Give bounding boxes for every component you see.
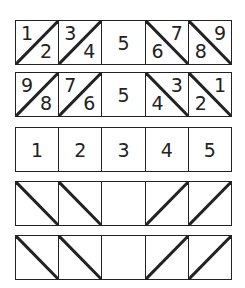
cell-r3-c1: 1 <box>16 128 59 171</box>
cell-r2-c1: 9 8 <box>16 73 59 116</box>
cell-r5-c4 <box>146 236 189 279</box>
cell-r2-c3: 5 <box>102 73 145 116</box>
cell-number-center: 5 <box>102 85 144 104</box>
cell-r3-c3: 3 <box>102 128 145 171</box>
diagonal-up-line <box>146 182 188 225</box>
cell-number-top-right: 1 <box>214 76 226 95</box>
cell-number-top-left: 1 <box>21 24 33 43</box>
cell-number-center: 5 <box>189 140 231 159</box>
diagonal-down-line <box>16 182 58 225</box>
cell-number-bottom-right: 6 <box>83 94 95 113</box>
cell-number-top-right: 7 <box>171 24 183 43</box>
cell-number-bottom-left: 2 <box>195 94 207 113</box>
cell-r4-c1 <box>16 182 59 225</box>
cell-r1-c3: 5 <box>102 21 145 64</box>
cell-number-center: 5 <box>102 33 144 52</box>
cell-r3-c5: 5 <box>189 128 231 171</box>
cell-r5-c5 <box>189 236 231 279</box>
cell-number-bottom-left: 6 <box>152 42 164 61</box>
cell-number-top-left: 3 <box>64 24 76 43</box>
cell-number-bottom-right: 4 <box>83 42 95 61</box>
cell-r2-c4: 3 4 <box>146 73 189 116</box>
cell-number-top-left: 9 <box>21 76 33 95</box>
cell-r1-c1: 1 2 <box>16 21 59 64</box>
cell-r2-c2: 7 6 <box>59 73 102 116</box>
cell-number-center: 3 <box>102 140 144 159</box>
cell-r4-c2 <box>59 182 102 225</box>
cell-r3-c2: 2 <box>59 128 102 171</box>
grid-row-1: 1 2 3 4 5 7 6 9 8 <box>15 20 232 65</box>
grid-row-2: 9 8 7 6 5 3 4 1 2 <box>15 72 232 117</box>
cell-number-center: 2 <box>59 140 101 159</box>
cell-number-bottom-right: 2 <box>40 42 52 61</box>
grid-row-5 <box>15 235 232 280</box>
cell-number-center: 4 <box>146 140 188 159</box>
number-grid-diagram: 1 2 3 4 5 7 6 9 8 9 8 7 <box>0 0 245 288</box>
cell-r5-c1 <box>16 236 59 279</box>
cell-r4-c5 <box>189 182 231 225</box>
grid-row-3: 1 2 3 4 5 <box>15 127 232 172</box>
diagonal-down-line <box>16 236 58 279</box>
cell-r5-c2 <box>59 236 102 279</box>
diagonal-up-line <box>189 182 231 225</box>
cell-r4-c3 <box>102 182 145 225</box>
cell-number-bottom-right: 8 <box>40 94 52 113</box>
cell-number-top-left: 7 <box>64 76 76 95</box>
cell-number-top-right: 9 <box>214 24 226 43</box>
grid-row-4 <box>15 181 232 226</box>
cell-r3-c4: 4 <box>146 128 189 171</box>
cell-r1-c5: 9 8 <box>189 21 231 64</box>
cell-number-bottom-left: 4 <box>152 94 164 113</box>
cell-r1-c2: 3 4 <box>59 21 102 64</box>
cell-r4-c4 <box>146 182 189 225</box>
cell-number-top-right: 3 <box>171 76 183 95</box>
cell-number-center: 1 <box>16 140 58 159</box>
diagonal-down-line <box>59 182 101 225</box>
cell-r5-c3 <box>102 236 145 279</box>
cell-r2-c5: 1 2 <box>189 73 231 116</box>
diagonal-down-line <box>59 236 101 279</box>
cell-number-bottom-left: 8 <box>195 42 207 61</box>
cell-r1-c4: 7 6 <box>146 21 189 64</box>
diagonal-up-line <box>189 236 231 279</box>
diagonal-up-line <box>146 236 188 279</box>
